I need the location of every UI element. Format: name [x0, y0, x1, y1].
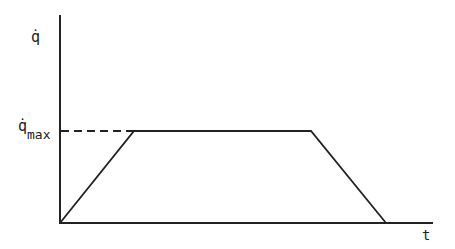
y-axis-label: q̇ — [31, 28, 40, 46]
velocity-profile-curve — [60, 131, 386, 223]
velocity-profile-diagram: q̇ q̇ max t — [0, 0, 455, 249]
qmax-label: q̇ — [18, 117, 27, 135]
x-axis-label: t — [422, 227, 430, 243]
qmax-subscript: max — [27, 127, 51, 142]
